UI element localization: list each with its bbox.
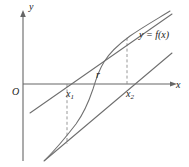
function-label: y = f(x) — [139, 30, 169, 40]
x1-label: x1 — [66, 89, 74, 101]
origin-label: O — [12, 87, 19, 97]
x-axis-label: x — [176, 80, 180, 90]
x1-label-subscript: 1 — [70, 93, 74, 101]
root-label: r — [96, 70, 100, 80]
y-axis-arrowhead — [20, 10, 26, 17]
lower-bounding-line — [44, 53, 172, 161]
x2-label: x2 — [126, 89, 134, 101]
y-axis-label: y — [29, 2, 33, 12]
x2-label-subscript: 2 — [130, 93, 134, 101]
math-figure: y x O x1 x2 r y = f(x) — [0, 0, 189, 167]
figure-canvas — [0, 0, 189, 167]
